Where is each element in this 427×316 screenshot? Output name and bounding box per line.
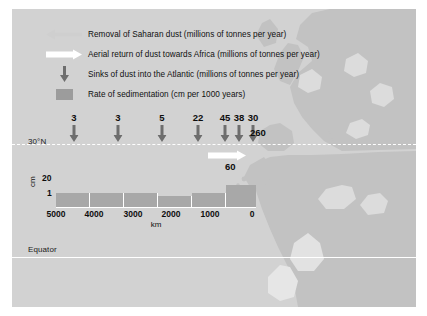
sink-value-6: 38 [234, 112, 245, 123]
sink-arrow-6 [235, 125, 244, 146]
sink-arrow-5 [221, 125, 230, 146]
legend-label-removal: Removal of Saharan dust (millions of ton… [88, 30, 286, 39]
arrow-left-pale-icon [40, 29, 88, 40]
sedimentation-xtick-3000: 3000 [124, 209, 143, 219]
sedimentation-bar-0 [226, 185, 256, 207]
arrow-down-dark-icon [40, 66, 88, 82]
legend-row-sinks: Sinks of dust into the Atlantic (million… [40, 65, 370, 83]
sedimentation-xtick-1000: 1000 [201, 209, 220, 219]
legend-row-sedimentation: Rate of sedimentation (cm per 1000 years… [40, 85, 370, 103]
latitude-label-30n: 30°N [28, 137, 46, 146]
sedimentation-xtick-5000: 5000 [47, 209, 66, 219]
sink-value-7: 30 [248, 112, 259, 123]
sedimentation-bar-2000 [158, 196, 192, 207]
legend-row-aerial-return: Aerial return of dust towards Africa (mi… [40, 45, 370, 63]
sink-value-1: 3 [71, 112, 76, 123]
latitude-line-equator [12, 257, 416, 258]
arrow-right-white-icon [40, 49, 88, 60]
sedimentation-bar-3000 [124, 193, 158, 207]
sink-arrow-1 [70, 125, 79, 146]
sedimentation-bar-1000 [192, 193, 226, 207]
sedimentation-chart: cm 20 1 5000 4000 3000 2000 1000 0 km [30, 171, 266, 229]
legend-label-sinks: Sinks of dust into the Atlantic (million… [88, 70, 299, 79]
sink-value-3: 5 [159, 112, 164, 123]
figure-saharan-dust-transport: 30°N Equator Removal of Saharan dust (mi… [0, 0, 427, 316]
sink-value-2: 3 [115, 112, 120, 123]
sink-value-5: 45 [220, 112, 231, 123]
sedimentation-baseline [56, 207, 256, 208]
gray-square-swatch-icon [40, 89, 88, 100]
legend-row-removal: Removal of Saharan dust (millions of ton… [40, 25, 370, 43]
sink-arrow-3 [158, 125, 167, 146]
sedimentation-xtick-2000: 2000 [162, 209, 181, 219]
sink-arrow-2 [114, 125, 123, 146]
removal-total-value: 260 [250, 127, 266, 138]
sedimentation-bar-5000 [56, 193, 90, 207]
legend: Removal of Saharan dust (millions of ton… [40, 25, 370, 105]
map-plate: 30°N Equator Removal of Saharan dust (mi… [12, 9, 416, 307]
sedimentation-x-axis-label: km [151, 220, 162, 229]
sedimentation-xtick-4000: 4000 [85, 209, 104, 219]
sedimentation-xtick-0: 0 [250, 209, 255, 219]
sink-arrow-4 [194, 125, 203, 146]
sink-value-4: 22 [193, 112, 204, 123]
latitude-label-equator: Equator [28, 245, 57, 254]
sedimentation-bar-4000 [90, 193, 124, 207]
sedimentation-bars [56, 178, 256, 207]
legend-label-sedimentation: Rate of sedimentation (cm per 1000 years… [88, 90, 245, 99]
legend-label-aerial-return: Aerial return of dust towards Africa (mi… [88, 50, 320, 59]
sedimentation-y-axis-label: cm [28, 176, 37, 187]
